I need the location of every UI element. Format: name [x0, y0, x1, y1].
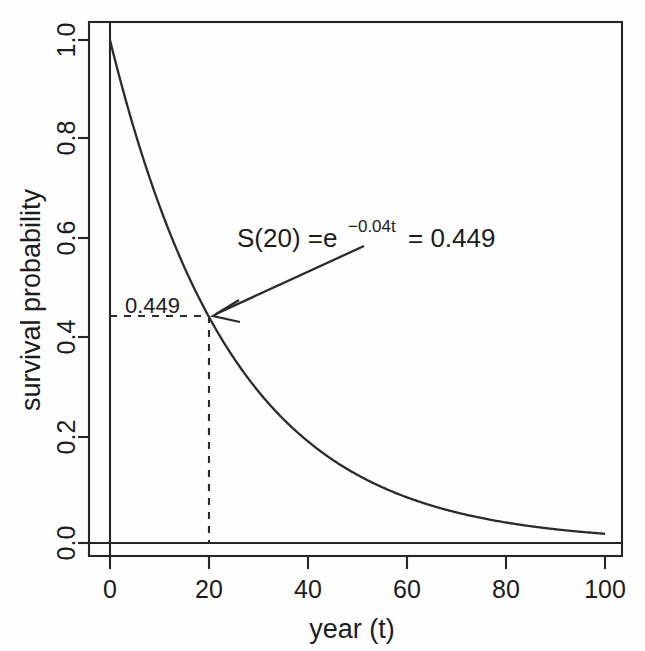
survival-curve-line [110, 40, 605, 534]
x-tick-label-1: 20 [195, 575, 223, 603]
survival-curve-chart: 1.0 0.8 0.6 0.4 0.2 0.0 survival probabi… [0, 0, 645, 651]
plot-canvas: 1.0 0.8 0.6 0.4 0.2 0.0 survival probabi… [0, 0, 645, 651]
x-axis-tick-labels: 0 20 40 60 80 100 [103, 575, 626, 603]
x-tick-label-3: 60 [393, 575, 421, 603]
y-axis-title: survival probability [16, 188, 46, 411]
plot-frame [89, 22, 622, 556]
x-tick-label-5: 100 [584, 575, 626, 603]
x-tick-label-0: 0 [103, 575, 117, 603]
y-tick-label-4: 0.8 [52, 121, 80, 156]
x-tick-label-2: 40 [294, 575, 322, 603]
highlight-value-label: 0.449 [125, 293, 180, 318]
annotation-arrow-shaft [216, 246, 364, 314]
survival-equation-annotation: S(20) =e −0.04t = 0.449 [237, 217, 495, 253]
annotation-arrow-head [213, 300, 240, 322]
y-tick-label-1: 0.2 [52, 420, 80, 455]
y-tick-label-0: 0.0 [52, 526, 80, 561]
equation-superscript: −0.04t [348, 217, 396, 236]
y-axis-ticks [78, 40, 89, 543]
x-tick-label-4: 80 [492, 575, 520, 603]
x-axis-title: year (t) [309, 614, 395, 644]
x-axis-ticks [110, 556, 605, 569]
equation-prefix: S(20) =e [237, 223, 337, 253]
y-tick-label-5: 1.0 [52, 23, 80, 58]
equation-suffix: = 0.449 [408, 223, 495, 253]
y-tick-label-2: 0.4 [52, 320, 80, 355]
y-axis-tick-labels: 1.0 0.8 0.6 0.4 0.2 0.0 [52, 23, 80, 561]
y-tick-label-3: 0.6 [52, 221, 80, 256]
